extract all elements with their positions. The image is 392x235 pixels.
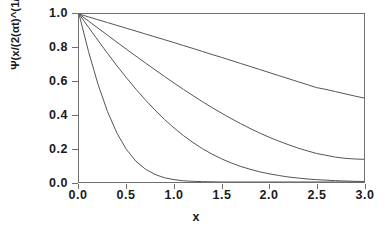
x-axis-tick-label: 2.0 xyxy=(247,188,291,202)
x-axis-title: x xyxy=(0,210,392,224)
x-axis-tick-label: 0.0 xyxy=(56,188,100,202)
x-axis-tick-label: 2.5 xyxy=(295,188,339,202)
y-axis-title: Ψ(x/(2(αt)^(1/2)) xyxy=(9,0,21,70)
chart-line-curve-2 xyxy=(79,14,364,159)
curves-svg xyxy=(79,14,364,182)
curve-group xyxy=(79,14,364,182)
chart-line-curve-4-fastest-decay xyxy=(79,14,364,182)
chart-line-curve-1-slowest-decay xyxy=(79,14,364,98)
plot-area xyxy=(78,13,365,183)
chart-line-curve-3 xyxy=(79,14,364,181)
y-axis-title-wrapper: Ψ(x/(2(αt)^(1/2)) xyxy=(8,0,22,112)
x-axis-tick-label: 1.0 xyxy=(152,188,196,202)
x-axis-tick-label: 3.0 xyxy=(343,188,387,202)
y-axis-tick-label: 0.2 xyxy=(8,143,68,155)
x-axis-tick-label: 1.5 xyxy=(200,188,244,202)
x-axis-tick-label: 0.5 xyxy=(104,188,148,202)
chart-figure: 1.0 0.8 0.6 0.4 0.2 0.0 0.0 0.5 1.0 1.5 … xyxy=(0,0,392,235)
